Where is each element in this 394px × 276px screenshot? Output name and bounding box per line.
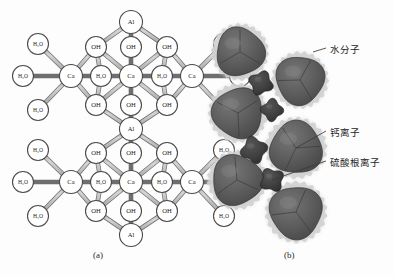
- atom-label: Al: [128, 18, 135, 25]
- specular-highlight: [285, 66, 301, 78]
- atom-label: Al: [128, 231, 135, 238]
- atom-node-oh2-t-l: OH: [86, 143, 107, 164]
- label-sulfate-ion: 硫酸根离子: [330, 155, 380, 169]
- atom-node-h2o2-m-l: H₂O: [91, 172, 112, 193]
- atom-node-oh-t-r: OH: [157, 37, 178, 58]
- atom-label: OH: [162, 43, 172, 50]
- atom-node-ca2-c: Ca: [120, 171, 143, 194]
- atom-node-al-top: Al: [120, 11, 143, 34]
- atom-label: Ca: [188, 72, 195, 79]
- facet-line: [278, 80, 300, 81]
- atom-node-w-lm: H₂O: [13, 66, 34, 87]
- atom-node-oh2-b-c: OH: [121, 201, 142, 222]
- atom-label: H₂O: [96, 73, 106, 79]
- atom-node-oh2-t-c: OH: [121, 143, 142, 164]
- caption-panel-b: (b): [284, 250, 295, 260]
- atom-node-oh2-b-l: OH: [86, 201, 107, 222]
- caption-panel-a: (a): [93, 250, 103, 260]
- atom-node-w2-lm: H₂O: [13, 172, 34, 193]
- atom-node-h2o-m-l: H₂O: [91, 66, 112, 87]
- atom-label: OH: [126, 149, 136, 156]
- specular-highlight: [247, 143, 254, 148]
- atom-label: H₂O: [33, 147, 43, 153]
- specular-highlight: [225, 38, 241, 50]
- atom-node-ca2-l: Ca: [60, 171, 83, 194]
- label-calcium-ion: 钙离子: [330, 125, 360, 139]
- atom-label: H₂O: [157, 73, 167, 79]
- atom-label: OH: [126, 101, 136, 108]
- atom-label: H₂O: [18, 73, 28, 79]
- atom-label: H₂O: [157, 179, 167, 185]
- atom-node-w2-lt: H₂O: [28, 140, 49, 161]
- atom-node-al-mid: Al: [120, 118, 143, 141]
- atom-label: OH: [91, 43, 101, 50]
- atom-label: Ca: [67, 72, 74, 79]
- atom-label: OH: [126, 207, 136, 214]
- atom-node-ca2-r: Ca: [181, 171, 204, 194]
- atom-label: H₂O: [33, 107, 43, 113]
- specular-highlight: [222, 98, 239, 110]
- atom-label: Al: [128, 125, 135, 132]
- atom-node-ca-c: Ca: [120, 65, 143, 88]
- atom-label: Ca: [188, 178, 195, 185]
- atom-label: OH: [162, 207, 172, 214]
- atom-label: OH: [126, 43, 136, 50]
- atom-node-h2o2-m-r: H₂O: [152, 172, 173, 193]
- atom-label: OH: [162, 101, 172, 108]
- atom-label: H₂O: [18, 179, 28, 185]
- atom-node-w-lt: H₂O: [28, 34, 49, 55]
- specular-highlight: [255, 77, 262, 82]
- atom-node-oh-t-c: OH: [121, 37, 142, 58]
- atom-label: OH: [91, 149, 101, 156]
- atom-node-oh-b-r: OH: [157, 95, 178, 116]
- specular-highlight: [279, 196, 297, 208]
- atom-node-oh2-b-r: OH: [157, 201, 178, 222]
- atom-label: Ca: [67, 178, 74, 185]
- atom-label: Ca: [127, 72, 134, 79]
- atom-node-ca-r: Ca: [181, 65, 204, 88]
- atom-node-oh-t-l: OH: [86, 37, 107, 58]
- atom-label: H₂O: [33, 213, 43, 219]
- atom-label: OH: [162, 149, 172, 156]
- atom-node-oh-b-c: OH: [121, 95, 142, 116]
- atom-label: H₂O: [96, 179, 106, 185]
- specular-highlight: [266, 174, 273, 179]
- atom-node-h2o-m-r: H₂O: [152, 66, 173, 87]
- label-water-molecule: 水分子: [330, 42, 360, 56]
- atom-label: Ca: [127, 178, 134, 185]
- atom-label: OH: [91, 101, 101, 108]
- atom-label: H₂O: [33, 41, 43, 47]
- atom-node-al-bot: Al: [120, 224, 143, 247]
- atom-label: OH: [91, 207, 101, 214]
- specular-highlight: [266, 104, 272, 108]
- specular-highlight: [221, 165, 238, 177]
- atom-node-oh2-t-r: OH: [157, 143, 178, 164]
- atom-node-w-lb: H₂O: [28, 100, 49, 121]
- atom-node-oh-b-l: OH: [86, 95, 107, 116]
- atom-node-w2-lb: H₂O: [28, 206, 49, 227]
- specular-highlight: [279, 132, 297, 144]
- atom-label: H₂O: [219, 213, 229, 219]
- atom-node-ca-l: Ca: [60, 65, 83, 88]
